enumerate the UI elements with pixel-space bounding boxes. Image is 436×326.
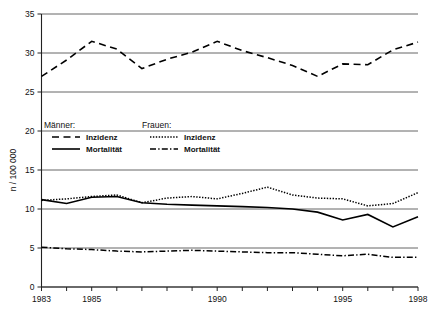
y-tick-label-20: 20 [25,126,35,136]
y-tick-label-25: 25 [25,87,35,97]
y-axis-title-text: n / 100 000 [8,148,18,191]
x-tick-label-1990: 1990 [208,294,227,304]
y-tick-label-10: 10 [25,204,35,214]
legend-label-maenner-mortalität: Mortalität [86,145,122,154]
chart-legend: Männer:InzidenzMortalitätFrauen:Inzidenz… [44,120,220,154]
x-tick-label-1998: 1998 [409,294,428,304]
series-line-männer-inzidenz [42,41,419,76]
legend-group-label-frauen: Frauen: [142,120,171,130]
x-tick-label-1985: 1985 [82,294,101,304]
legend-label-frauen-mortalität: Mortalität [184,145,220,154]
chart-canvas: 05101520253035 19831985199019951998 n / … [0,0,436,326]
y-tick-label-5: 5 [30,243,35,253]
y-tick-label-0: 0 [30,282,35,292]
series-line-frauen-mortalität [42,247,419,257]
y-tick-label-30: 30 [25,48,35,58]
legend-label-maenner-inzidenz: Inzidenz [86,133,118,142]
y-tick-label-35: 35 [25,9,35,19]
x-axis-tick-labels: 19831985199019951998 [32,294,428,304]
y-axis-ticks [38,14,42,287]
x-tick-label-1983: 1983 [32,294,51,304]
y-tick-label-15: 15 [25,165,35,175]
x-tick-label-1995: 1995 [333,294,352,304]
y-axis-title: n / 100 000 [8,148,18,191]
legend-group-label-maenner: Männer: [44,120,75,130]
series-line-männer-mortalität [42,197,419,227]
y-axis-tick-labels: 05101520253035 [25,9,35,292]
x-axis-ticks [42,287,419,291]
incidence-mortality-chart: 05101520253035 19831985199019951998 n / … [0,0,436,326]
legend-label-frauen-inzidenz: Inzidenz [184,133,216,142]
